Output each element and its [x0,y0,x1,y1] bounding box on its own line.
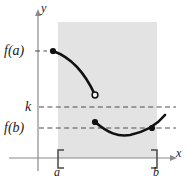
figure-svg [0,0,188,183]
marker-filled-dot-fb [149,125,155,131]
figure-canvas: f(a) k f(b) y x a b [0,0,188,183]
marker-filled-dot-fa [50,48,56,54]
y-axis-label: y [41,2,46,14]
marker-open-circle-limit [92,92,98,98]
x-axis-label: x [176,147,181,159]
x-tick-label-b: b [153,166,159,178]
axis-label-k: k [25,100,31,114]
shaded-interval-region [58,22,157,158]
axis-label-f-of-b: f(b) [4,121,24,135]
x-tick-label-a: a [54,166,60,178]
axis-label-f-of-a: f(a) [4,44,24,58]
marker-filled-dot-jump [92,119,98,125]
